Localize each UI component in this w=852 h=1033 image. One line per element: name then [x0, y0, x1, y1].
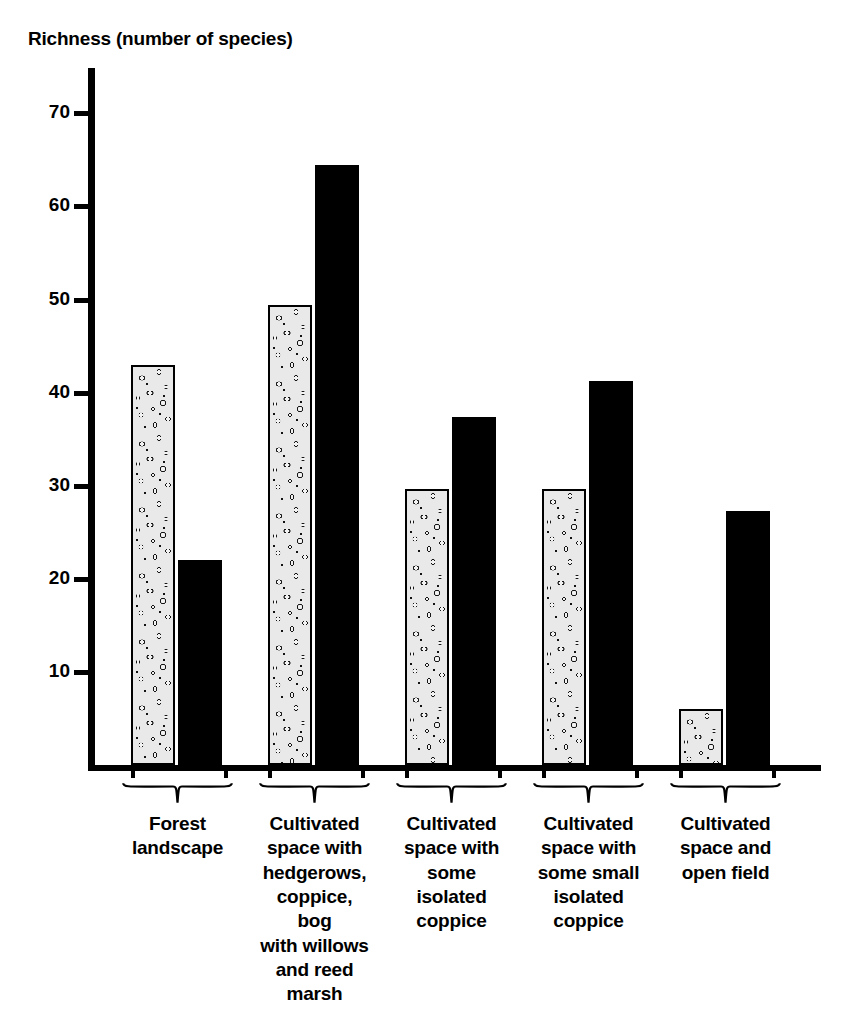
x-axis-tick-mark: [498, 765, 502, 778]
category-label-line: Forest: [121, 812, 234, 836]
category-label-line: with willows: [258, 934, 371, 958]
category-label-line: some small: [532, 861, 645, 885]
category-label-line: landscape: [121, 836, 234, 860]
bar-solid-3: [452, 417, 496, 765]
category-label-line: marsh: [258, 982, 371, 1006]
category-label-3: Cultivatedspace withsomeisolatedcoppice: [395, 812, 508, 934]
bar-stippled-3: [405, 489, 449, 765]
x-axis-tick-mark: [131, 765, 135, 778]
category-brace-icon: [532, 780, 645, 806]
category-label-line: Cultivated: [669, 812, 782, 836]
category-label-line: coppice, bog: [258, 885, 371, 934]
bar-solid-2: [315, 165, 359, 765]
category-label-line: Cultivated: [258, 812, 371, 836]
bar-solid-4: [589, 381, 633, 765]
category-label-5: Cultivatedspace andopen field: [669, 812, 782, 885]
category-label-line: Cultivated: [532, 812, 645, 836]
category-label-line: isolated: [532, 885, 645, 909]
plot-area: 10203040506070: [0, 0, 852, 790]
category-label-line: and reed: [258, 958, 371, 982]
category-label-4: Cultivatedspace withsome smallisolatedco…: [532, 812, 645, 934]
category-label-line: space with: [532, 836, 645, 860]
category-label-line: some: [395, 861, 508, 885]
x-axis-line: [88, 765, 821, 771]
bar-stippled-5: [679, 709, 723, 765]
category-label-line: space and: [669, 836, 782, 860]
category-label-line: hedgerows,: [258, 861, 371, 885]
bars-layer: [0, 0, 852, 765]
bar-stippled-2: [268, 305, 312, 765]
x-axis-tick-mark: [268, 765, 272, 778]
category-brace-icon: [395, 780, 508, 806]
x-axis-tick-mark: [772, 765, 776, 778]
category-label-line: space with: [395, 836, 508, 860]
x-axis-tick-mark: [679, 765, 683, 778]
category-label-line: isolated: [395, 885, 508, 909]
bar-stippled-1: [131, 365, 175, 765]
x-axis-tick-mark: [635, 765, 639, 778]
category-label-line: coppice: [395, 909, 508, 933]
category-label-line: Cultivated: [395, 812, 508, 836]
category-label-line: open field: [669, 861, 782, 885]
category-label-1: Forestlandscape: [121, 812, 234, 861]
x-axis-tick-mark: [542, 765, 546, 778]
bar-solid-5: [726, 511, 770, 765]
category-label-line: coppice: [532, 909, 645, 933]
richness-bar-chart: Richness (number of species) 10203040506…: [0, 0, 852, 1033]
category-brace-icon: [258, 780, 371, 806]
category-brace-icon: [669, 780, 782, 806]
bar-solid-1: [178, 560, 222, 765]
category-label-2: Cultivatedspace withhedgerows,coppice, b…: [258, 812, 371, 1007]
category-labels-layer: ForestlandscapeCultivatedspace withhedge…: [0, 780, 852, 1033]
category-label-line: space with: [258, 836, 371, 860]
bar-stippled-4: [542, 489, 586, 765]
category-brace-icon: [121, 780, 234, 806]
x-axis-tick-mark: [361, 765, 365, 778]
x-axis-tick-mark: [224, 765, 228, 778]
x-axis-tick-mark: [405, 765, 409, 778]
